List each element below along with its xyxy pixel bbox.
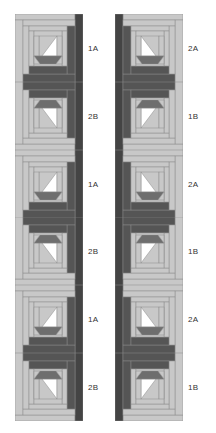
block-label: 2B (88, 383, 98, 392)
block-label: 1B (188, 247, 198, 256)
block-label: 2B (88, 247, 98, 256)
quilt-block-1a (15, 150, 83, 218)
quilt-block-2a (115, 150, 183, 218)
block-label: 2A (188, 180, 198, 189)
quilt-block-2b (15, 353, 83, 421)
quilt-block-1b (115, 82, 183, 150)
quilt-block-2b (15, 82, 83, 150)
quilt-block-1a (15, 285, 83, 353)
quilt-block-1b (115, 217, 183, 285)
right-block-column (115, 14, 183, 421)
block-label: 2A (188, 44, 198, 53)
block-label: 1A (88, 315, 98, 324)
quilt-block-1a (15, 14, 83, 82)
block-label: 1A (88, 44, 98, 53)
left-block-column (15, 14, 83, 421)
block-label: 1A (88, 180, 98, 189)
quilt-block-2b (15, 217, 83, 285)
quilt-block-2a (115, 14, 183, 82)
block-label: 1B (188, 112, 198, 121)
block-label: 2A (188, 315, 198, 324)
block-label: 2B (88, 112, 98, 121)
quilt-block-1b (115, 353, 183, 421)
quilt-block-2a (115, 285, 183, 353)
block-label: 1B (188, 383, 198, 392)
